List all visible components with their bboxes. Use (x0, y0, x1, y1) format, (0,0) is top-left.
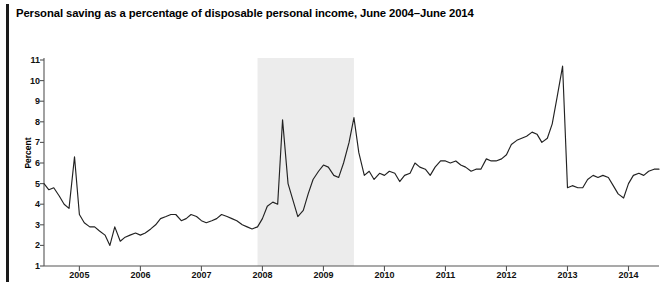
left-rule-divider (6, 4, 9, 282)
y-axis-tick-label: 11 (18, 55, 40, 65)
x-axis-tick-label: 2009 (313, 270, 333, 280)
y-axis-tick-label: 6 (18, 158, 40, 168)
y-axis-tick-label: 2 (18, 240, 40, 250)
y-axis-tick-label: 8 (18, 117, 40, 127)
figure-container: Personal saving as a percentage of dispo… (0, 0, 663, 286)
y-axis-tick-label: 3 (18, 220, 40, 230)
y-axis-tick-label: 10 (18, 76, 40, 86)
line-chart-plot (0, 0, 663, 286)
x-axis-tick-label: 2008 (252, 270, 272, 280)
recession-band (258, 58, 354, 266)
x-axis-tick-label: 2006 (130, 270, 150, 280)
x-axis-tick-label: 2013 (557, 270, 577, 280)
y-axis-tick-label: 7 (18, 137, 40, 147)
x-axis-tick-label: 2012 (496, 270, 516, 280)
x-axis-tick-label: 2011 (436, 270, 456, 280)
y-axis-tick-label: 5 (18, 179, 40, 189)
x-axis-tick-label: 2007 (191, 270, 211, 280)
x-axis-tick-label: 2010 (374, 270, 394, 280)
y-axis-tick-label: 4 (18, 199, 40, 209)
y-axis-tick-label: 9 (18, 96, 40, 106)
x-axis-tick-label: 2005 (69, 270, 89, 280)
y-axis-tick-label: 1 (18, 261, 40, 271)
x-axis-tick-label: 2014 (618, 270, 638, 280)
y-axis-tick-labels: 1234567891011 (18, 0, 40, 286)
page-title: Personal saving as a percentage of dispo… (16, 7, 474, 19)
